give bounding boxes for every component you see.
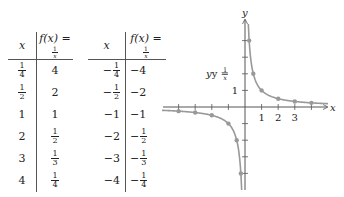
tick-labels: 1231: [232, 85, 298, 123]
data-point: [226, 121, 230, 125]
y-axis-label: y: [241, 7, 248, 18]
svg-text:1: 1: [232, 85, 238, 96]
data-point: [259, 88, 263, 92]
svg-text:3: 3: [292, 112, 298, 123]
data-point: [247, 38, 251, 42]
svg-text:1: 1: [223, 66, 227, 74]
data-point: [293, 99, 297, 103]
data-point: [176, 109, 180, 113]
axes: [163, 19, 328, 190]
svg-text:2: 2: [275, 112, 281, 123]
svg-text:x: x: [223, 74, 227, 82]
data-point: [309, 101, 313, 105]
data-point: [193, 110, 197, 114]
data-point: [251, 72, 255, 76]
data-point: [239, 171, 243, 175]
data-point: [235, 138, 239, 142]
svg-text:1: 1: [258, 112, 264, 123]
x-axis-label: x: [330, 102, 336, 113]
reciprocal-graph: x y 1231 yy = 1 x: [0, 0, 344, 197]
data-point: [210, 113, 214, 117]
data-point: [276, 97, 280, 101]
